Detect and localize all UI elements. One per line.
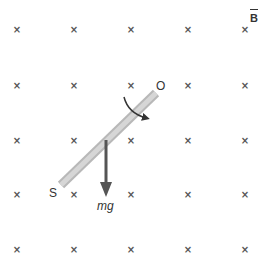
end-label: S xyxy=(49,187,57,199)
rod-and-arrows xyxy=(0,0,264,267)
magnetic-field-diagram: ××××××××××××××××××××××××× B O S mg xyxy=(0,0,264,267)
field-label: B xyxy=(250,13,258,24)
force-label: mg xyxy=(97,200,114,212)
vector-bar xyxy=(250,9,258,10)
pivot-label: O xyxy=(156,80,165,92)
